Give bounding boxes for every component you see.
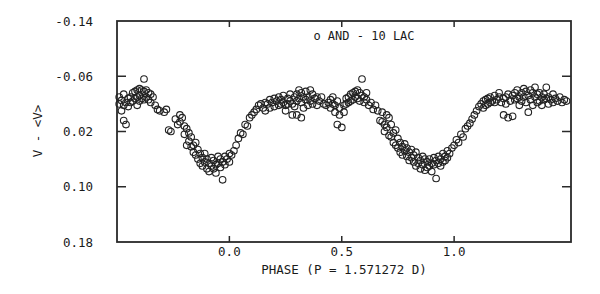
y-tick-label: 0.10 [63,179,93,194]
light-curve-chart: -0.14-0.060.020.100.18 0.00.51.0 o AND -… [0,0,600,294]
y-axis-ticks: -0.14-0.060.020.100.18 [55,14,571,250]
x-tick-label: 1.0 [443,244,466,259]
data-point [374,108,381,115]
y-tick-label: 0.02 [63,124,93,139]
y-tick-label: -0.06 [55,69,93,84]
y-tick-label: -0.14 [55,14,93,29]
x-axis-ticks: 0.00.51.0 [218,21,465,259]
data-points [116,76,570,183]
y-tick-label: 0.18 [63,235,93,250]
data-point [168,128,175,135]
chart-title: o AND - 10 LAC [313,29,414,43]
data-point [156,108,163,115]
data-point [141,76,148,83]
data-point [525,109,532,116]
x-tick-label: 0.0 [218,244,241,259]
data-point [563,98,570,105]
data-point [428,168,435,175]
x-axis-label: PHASE (P = 1.571272 D) [261,262,427,277]
x-tick-label: 0.5 [330,244,353,259]
data-point [433,175,440,182]
data-point [244,123,251,130]
data-point [509,113,516,120]
data-point [233,142,240,149]
data-point [359,76,366,83]
data-point [543,84,550,91]
y-axis-label: V - <V> [30,105,45,158]
data-point [219,177,226,184]
data-point [240,131,247,138]
